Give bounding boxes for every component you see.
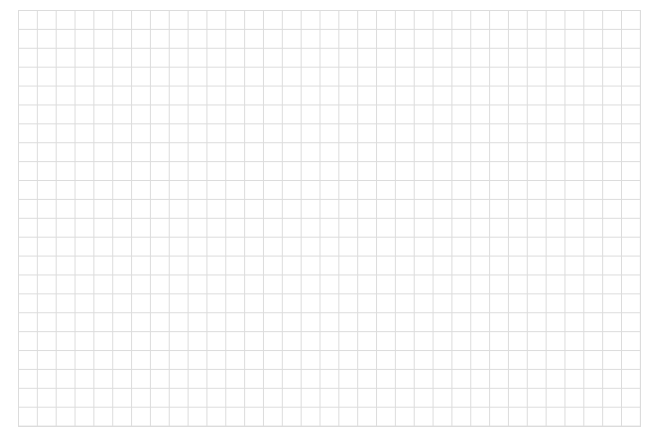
graph-paper-grid (18, 10, 641, 427)
